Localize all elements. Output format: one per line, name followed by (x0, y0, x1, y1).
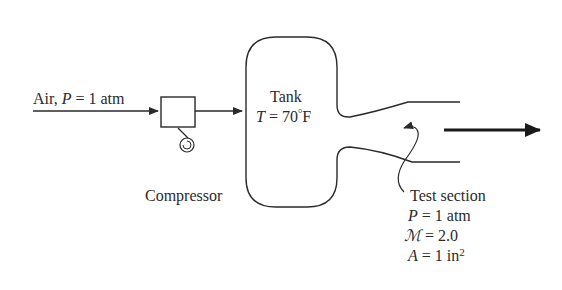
compressor-label: Compressor (145, 187, 222, 205)
tank-temp-var: T (256, 108, 265, 125)
inlet-label-prefix: Air, (33, 90, 62, 107)
tank-temp-unit: F (302, 108, 311, 125)
test-section-mach: ℳ = 2.0 (404, 227, 458, 245)
mach-value: = 2.0 (421, 227, 458, 244)
inlet-pressure-value: = 1 atm (71, 90, 124, 107)
area-value: = 1 in (418, 247, 459, 264)
tank-temp-value: = 70 (265, 108, 298, 125)
area-var: A (408, 247, 418, 264)
tank-temperature: T = 70°F (256, 108, 311, 126)
mach-var: ℳ (404, 226, 421, 245)
test-section-pressure: P = 1 atm (408, 207, 471, 225)
test-section-area: A = 1 in2 (408, 247, 465, 265)
compressor-icon (161, 97, 195, 152)
test-section-pointer (398, 127, 418, 192)
tank-title: Tank (270, 88, 302, 106)
test-pressure-value: = 1 atm (418, 207, 471, 224)
test-section-title: Test section (410, 187, 486, 205)
wind-tunnel-diagram (0, 0, 562, 290)
inlet-label: Air, P = 1 atm (33, 90, 124, 108)
area-exponent: 2 (459, 246, 465, 258)
inlet-pressure-var: P (62, 90, 72, 107)
test-pressure-var: P (408, 207, 418, 224)
